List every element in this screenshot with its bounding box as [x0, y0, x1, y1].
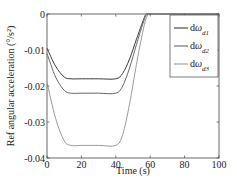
x-tick-label: 80 [180, 159, 190, 170]
y-axis-label: Ref angular acceleration (°/s²) [5, 26, 17, 147]
legend: dωd1dωd2dωd3 [170, 15, 218, 77]
x-axis-label: Time (s) [116, 165, 150, 177]
line-chart: 020406080100 0-0.01-0.02-0.03-0.04 Time … [0, 0, 237, 189]
y-tick-label: -0.01 [24, 45, 45, 56]
x-tick-label: 20 [76, 159, 86, 170]
y-tick-label: -0.04 [24, 153, 45, 164]
y-tick-label: -0.03 [24, 117, 45, 128]
y-tick-label: 0 [40, 9, 45, 20]
y-tick-label: -0.02 [24, 81, 45, 92]
x-tick-label: 0 [45, 159, 50, 170]
x-tick-label: 100 [212, 159, 227, 170]
